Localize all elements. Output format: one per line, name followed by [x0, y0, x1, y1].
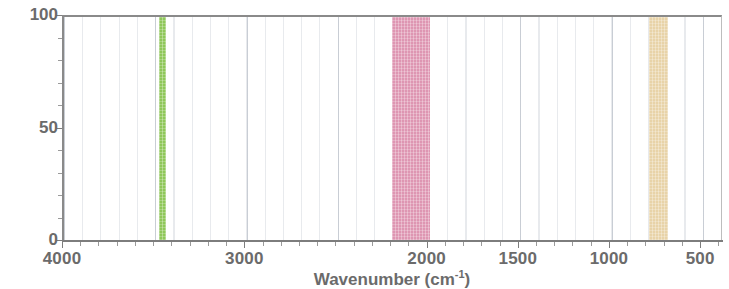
x-minor-tick [135, 242, 136, 246]
x-axis-title-superscript: -1 [455, 268, 465, 280]
x-tick-3000 [244, 242, 245, 248]
x-axis-line [62, 240, 723, 242]
x-tick-label-2000: 2000 [407, 249, 446, 269]
tan-band-texture [649, 17, 668, 240]
pink-band [392, 17, 429, 240]
x-minor-tick [627, 242, 628, 246]
y-axis-line [62, 15, 64, 242]
x-minor-tick [445, 242, 446, 246]
x-axis-title-main: Wavenumber (cm [314, 270, 455, 289]
x-minor-tick [80, 242, 81, 246]
x-tick-1000 [609, 242, 610, 248]
x-minor-tick [299, 242, 300, 246]
x-tick-4000 [62, 242, 63, 248]
x-minor-tick [536, 242, 537, 246]
x-minor-tick [481, 242, 482, 246]
x-tick-label-500: 500 [686, 249, 715, 269]
x-tick-1500 [518, 242, 519, 248]
y-minor-tick [58, 83, 62, 84]
x-minor-tick [354, 242, 355, 246]
y-tick-label-0: 0 [49, 230, 58, 250]
x-minor-tick [390, 242, 391, 246]
y-minor-tick [58, 195, 62, 196]
x-axis-title-tail: ) [465, 270, 471, 289]
x-minor-tick [664, 242, 665, 246]
x-minor-tick [554, 242, 555, 246]
x-minor-tick [718, 242, 719, 246]
x-minor-tick [117, 242, 118, 246]
x-tick-500 [700, 242, 701, 248]
x-tick-label-1500: 1500 [498, 249, 537, 269]
chart-root: 100500 40003000200015001000500 Wavenumbe… [0, 0, 729, 289]
x-minor-tick [463, 242, 464, 246]
x-axis-title: Wavenumber (cm-1) [62, 268, 722, 289]
x-minor-tick [317, 242, 318, 246]
tan-band [649, 17, 668, 240]
x-minor-tick [591, 242, 592, 246]
x-minor-tick [281, 242, 282, 246]
y-minor-tick [58, 38, 62, 39]
x-minor-tick [153, 242, 154, 246]
plot-area [62, 15, 722, 240]
green-band-texture [159, 17, 166, 240]
x-tick-label-3000: 3000 [225, 249, 264, 269]
x-tick-2000 [427, 242, 428, 248]
y-minor-tick [58, 150, 62, 151]
x-minor-tick [645, 242, 646, 246]
y-minor-tick [58, 173, 62, 174]
x-minor-tick [190, 242, 191, 246]
x-minor-tick [98, 242, 99, 246]
y-minor-tick [58, 60, 62, 61]
x-minor-tick [226, 242, 227, 246]
y-minor-tick [58, 218, 62, 219]
x-tick-label-1000: 1000 [590, 249, 629, 269]
y-minor-tick [58, 105, 62, 106]
x-minor-tick [208, 242, 209, 246]
x-minor-tick [682, 242, 683, 246]
x-minor-tick [335, 242, 336, 246]
y-tick-label-100: 100 [30, 5, 58, 25]
x-minor-tick [263, 242, 264, 246]
x-minor-tick [572, 242, 573, 246]
x-minor-tick [171, 242, 172, 246]
x-minor-tick [500, 242, 501, 246]
pink-band-texture [392, 17, 429, 240]
x-minor-tick [372, 242, 373, 246]
x-minor-tick [408, 242, 409, 246]
x-tick-label-4000: 4000 [43, 249, 82, 269]
green-band [159, 17, 166, 240]
y-tick-label-50: 50 [39, 118, 58, 138]
